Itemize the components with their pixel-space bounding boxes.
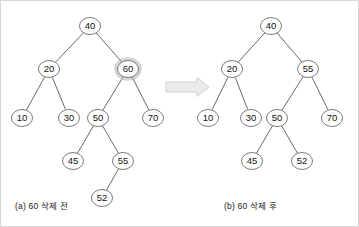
node-label: 40 [85,20,96,31]
node-label: 40 [266,20,277,31]
tree-node-70[interactable]: 70 [322,110,343,127]
tree-node-50[interactable]: 50 [267,110,288,127]
tree-node-52[interactable]: 52 [292,153,313,170]
tree-edge-50-45 [257,126,272,152]
node-label: 30 [64,112,75,123]
tree-node-60[interactable]: 60 [114,57,141,80]
node-label: 60 [123,63,134,74]
tree-node-45[interactable]: 45 [242,153,263,170]
tree-edge-20-10 [27,77,45,109]
tree-node-70[interactable]: 70 [143,110,164,127]
tree-edge-40-60 [96,33,121,62]
tree-node-45[interactable]: 45 [63,153,84,170]
tree-node-40[interactable]: 40 [80,18,101,35]
figure-container: 40206010305070455552402055103050704552 (… [0,0,359,227]
node-label: 10 [203,112,214,123]
tree-edge-40-20 [238,33,264,62]
tree-edge-60-50 [103,77,123,110]
tree-edge-55-50 [282,77,303,110]
tree-node-55[interactable]: 55 [113,153,134,170]
tree-node-30[interactable]: 30 [59,110,80,127]
node-label: 20 [227,63,238,74]
node-label: 52 [297,155,308,166]
tree-node-10[interactable]: 10 [198,110,219,127]
node-label: 52 [97,192,108,203]
bst-deletion-diagram: 40206010305070455552402055103050704552 [1,1,359,227]
tree-edge-60-70 [132,78,148,110]
node-label: 10 [17,112,28,123]
tree-node-55[interactable]: 55 [298,61,319,78]
caption-before: (a) 60 삭제 전 [15,199,68,211]
tree-edge-55-52 [107,169,119,189]
tree-edge-50-45 [78,126,93,152]
tree-edges [212,33,328,153]
node-label: 50 [272,112,283,123]
tree-node-52[interactable]: 52 [92,190,113,207]
tree-edge-40-20 [56,33,84,62]
tree-node-40[interactable]: 40 [261,18,282,35]
node-label: 45 [68,155,79,166]
tree-edge-40-55 [277,33,301,61]
tree-edge-50-55 [103,126,118,152]
tree-edge-20-10 [212,78,228,110]
tree-node-20[interactable]: 20 [222,61,243,78]
node-label: 55 [118,155,129,166]
node-label: 20 [44,63,55,74]
node-label: 55 [303,63,314,74]
tree-node-20[interactable]: 20 [39,61,60,78]
node-label: 30 [246,112,257,123]
node-label: 50 [93,112,104,123]
tree-edge-20-30 [235,78,247,109]
node-label: 70 [148,112,159,123]
tree-node-50[interactable]: 50 [88,110,109,127]
right-arrow-icon [166,78,209,97]
caption-after: (b) 60 삭제 후 [224,199,277,211]
node-label: 70 [327,112,338,123]
tree-node-30[interactable]: 30 [241,110,262,127]
tree-edge-55-70 [312,78,328,110]
tree-edge-20-30 [53,78,66,109]
node-label: 45 [247,155,258,166]
tree-edge-50-52 [282,126,297,152]
tree-before: 40206010305070455552 [12,18,164,207]
tree-node-10[interactable]: 10 [12,110,33,127]
tree-after: 402055103050704552 [198,18,343,170]
